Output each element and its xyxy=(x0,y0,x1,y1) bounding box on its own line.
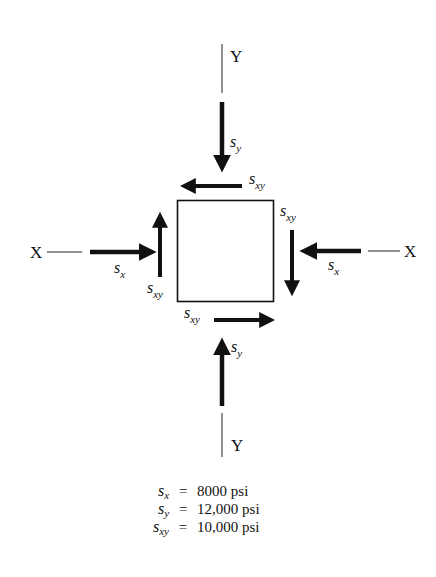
legend-equals: = xyxy=(179,501,187,518)
sy-bottom-label: sy xyxy=(231,338,242,359)
legend-row-sx: sx = 8000 psi xyxy=(158,482,248,500)
sx-left-label: sx xyxy=(114,259,125,280)
sxy-bottom-label: sxy xyxy=(184,304,200,325)
stress-element-diagram: Y sy sxy sxy X sx X sx sxy sxy sy Y xyxy=(0,0,436,577)
x-axis-label-left: X xyxy=(30,243,42,262)
y-axis-label-top: Y xyxy=(230,47,242,66)
legend-value: 12,000 psi xyxy=(197,501,260,517)
legend-subscript: xy xyxy=(159,525,169,537)
sy-top-label: sy xyxy=(230,133,241,154)
sxy-left-label: sxy xyxy=(147,279,163,300)
legend-value: 8000 psi xyxy=(197,483,248,499)
sx-right-label: sx xyxy=(328,256,339,277)
x-axis-label-right: X xyxy=(404,242,416,261)
legend-equals: = xyxy=(179,483,187,500)
legend-value: 10,000 psi xyxy=(197,519,260,535)
y-axis-label-bottom: Y xyxy=(231,436,243,455)
legend-row-sy: sy = 12,000 psi xyxy=(158,500,260,518)
stress-element-square xyxy=(178,201,274,302)
legend-row-sxy: sxy = 10,000 psi xyxy=(153,518,259,536)
sxy-top-label: sxy xyxy=(249,170,265,191)
sxy-right-label: sxy xyxy=(280,202,296,223)
legend-equals: = xyxy=(179,519,187,536)
